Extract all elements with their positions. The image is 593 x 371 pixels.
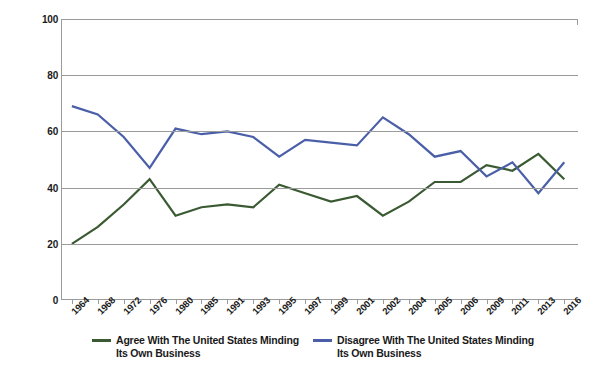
y-tick-label-0: 0 <box>30 295 58 306</box>
y-tick-label-80: 80 <box>30 70 58 81</box>
chart-legend: Agree With The United States Minding Its… <box>0 334 593 368</box>
y-tick-label-60: 60 <box>30 126 58 137</box>
series-line-0 <box>72 154 564 244</box>
series-line-1 <box>72 106 564 193</box>
legend-swatch-icon-0 <box>92 339 111 342</box>
legend-label-0: Agree With The United States Minding Its… <box>116 334 299 360</box>
y-axis-tick-labels: 100806040200 <box>28 0 58 300</box>
gridline-80 <box>61 75 578 76</box>
plot-area <box>61 19 578 300</box>
gridline-100 <box>61 19 578 20</box>
y-tick-label-40: 40 <box>30 182 58 193</box>
legend-swatch-icon-1 <box>313 339 332 342</box>
line-chart: % of Americans That Agree or Disagree 10… <box>0 0 593 371</box>
series-layer <box>61 19 578 300</box>
legend-item-1[interactable]: Disagree With The United States Minding … <box>313 334 534 360</box>
gridline-40 <box>61 188 578 189</box>
y-tick-label-20: 20 <box>30 238 58 249</box>
legend-item-0[interactable]: Agree With The United States Minding Its… <box>92 334 299 360</box>
gridline-60 <box>61 131 578 132</box>
gridline-20 <box>61 244 578 245</box>
legend-label-1: Disagree With The United States Minding … <box>337 334 534 360</box>
y-tick-label-100: 100 <box>30 14 58 25</box>
